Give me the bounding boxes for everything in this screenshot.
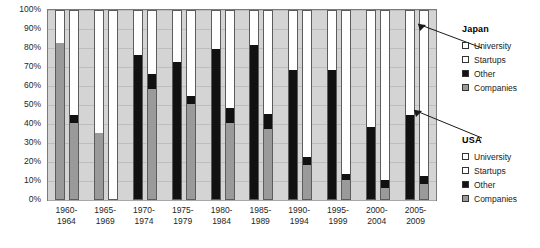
bar-japan-2000-2004[interactable] <box>366 10 376 200</box>
bar-segment-other <box>173 62 181 199</box>
bar-usa-1960-1964[interactable] <box>69 10 79 200</box>
x-axis-tick-line: 1999 <box>319 216 358 227</box>
bar-segment-companies <box>187 104 195 199</box>
legend-item[interactable]: University <box>462 39 540 52</box>
legend-label: University <box>474 152 511 162</box>
bar-usa-1990-1994[interactable] <box>302 10 312 200</box>
x-axis-tick: 1965-1969 <box>86 205 125 227</box>
bar-usa-1970-1974[interactable] <box>147 10 157 200</box>
bar-japan-1965-1969[interactable] <box>94 10 104 200</box>
y-axis-tick: 70% <box>24 62 41 71</box>
bar-usa-2000-2004[interactable] <box>380 10 390 200</box>
bar-segment-university <box>226 10 234 108</box>
legend-swatch-university <box>462 42 469 49</box>
bar-segment-other <box>134 55 142 199</box>
x-axis-tick: 1960-1964 <box>47 205 86 227</box>
bar-segment-companies <box>70 123 78 199</box>
bar-group <box>242 10 281 200</box>
bar-japan-1980-1984[interactable] <box>211 10 221 200</box>
bar-japan-1970-1974[interactable] <box>133 10 143 200</box>
bar-japan-1995-1999[interactable] <box>327 10 337 200</box>
x-axis-tick-line: 1965- <box>86 205 125 216</box>
bar-usa-1985-1989[interactable] <box>263 10 273 200</box>
bar-group <box>358 10 397 200</box>
bar-segment-other <box>289 70 297 199</box>
bar-group <box>164 10 203 200</box>
x-axis-tick-line: 1980- <box>202 205 241 216</box>
y-axis-tick: 20% <box>24 157 41 166</box>
y-axis-tick: 10% <box>24 176 41 185</box>
x-axis-tick: 1970-1974 <box>125 205 164 227</box>
bar-segment-other <box>148 74 156 89</box>
bar-group <box>397 10 436 200</box>
x-axis-tick: 1975-1979 <box>163 205 202 227</box>
bar-group <box>48 10 87 200</box>
legend-item[interactable]: Startups <box>462 53 540 66</box>
legend-item[interactable]: Companies <box>462 192 540 205</box>
bar-segment-university <box>367 10 375 127</box>
bar-segment-university <box>303 10 311 157</box>
legend-item[interactable]: Other <box>462 178 540 191</box>
y-axis-tick: 0% <box>29 195 41 204</box>
bar-segment-other <box>342 174 350 180</box>
bar-usa-2005-2009[interactable] <box>419 10 429 200</box>
bar-group <box>320 10 359 200</box>
bar-segment-university <box>406 10 414 115</box>
bar-segment-companies <box>95 133 103 200</box>
bar-segment-university <box>70 10 78 115</box>
legend-swatch-other <box>462 70 469 77</box>
bar-segment-companies <box>420 184 428 199</box>
bar-segment-companies <box>303 165 311 199</box>
x-axis-tick-line: 1970- <box>125 205 164 216</box>
bar-segment-companies <box>342 180 350 199</box>
legend-swatch-other <box>462 181 469 188</box>
bar-segment-university <box>381 10 389 180</box>
bar-segment-other <box>303 157 311 165</box>
legend-label: University <box>474 41 511 51</box>
bar-usa-1975-1979[interactable] <box>186 10 196 200</box>
legend-item[interactable]: Startups <box>462 164 540 177</box>
bar-usa-1965-1969[interactable] <box>108 10 118 200</box>
y-axis-tick: 80% <box>24 43 41 52</box>
x-axis-tick-line: 1975- <box>163 205 202 216</box>
bar-japan-1990-1994[interactable] <box>288 10 298 200</box>
bar-segment-university <box>187 10 195 96</box>
x-axis-tick-line: 2000- <box>357 205 396 216</box>
bar-usa-1980-1984[interactable] <box>225 10 235 200</box>
bar-group <box>281 10 320 200</box>
x-axis-tick: 1990-1994 <box>280 205 319 227</box>
bar-japan-2005-2009[interactable] <box>405 10 415 200</box>
bar-segment-companies <box>264 129 272 199</box>
bar-japan-1985-1989[interactable] <box>249 10 259 200</box>
bar-segment-university <box>148 10 156 74</box>
bar-usa-1995-1999[interactable] <box>341 10 351 200</box>
legend-label: Startups <box>474 55 506 65</box>
bar-japan-1975-1979[interactable] <box>172 10 182 200</box>
legend-usa: USA UniversityStartupsOtherCompanies <box>462 135 540 206</box>
x-axis-tick-line: 2009 <box>396 216 435 227</box>
y-axis-labels: 0%10%20%30%40%50%60%70%80%90%100% <box>0 0 44 201</box>
legend-label: Companies <box>474 194 517 204</box>
bar-segment-university <box>56 10 64 43</box>
bar-segment-other <box>250 45 258 199</box>
legend-item[interactable]: University <box>462 150 540 163</box>
legend-swatch-companies <box>462 195 469 202</box>
bar-segment-companies <box>148 89 156 199</box>
stacked-bar-chart: 0%10%20%30%40%50%60%70%80%90%100% 1960-1… <box>0 0 540 248</box>
bar-segment-university <box>342 10 350 174</box>
legend-item[interactable]: Other <box>462 67 540 80</box>
y-axis-tick: 50% <box>24 100 41 109</box>
legend-swatch-startups <box>462 56 469 63</box>
x-axis-tick: 1995-1999 <box>319 205 358 227</box>
bar-groups <box>48 10 436 200</box>
x-axis-tick-line: 1974 <box>125 216 164 227</box>
legend-item[interactable]: Companies <box>462 81 540 94</box>
bar-segment-companies <box>381 188 389 199</box>
bar-segment-companies <box>56 43 64 199</box>
legend-swatch-startups <box>462 167 469 174</box>
x-axis-tick-line: 1979 <box>163 216 202 227</box>
bar-japan-1960-1964[interactable] <box>55 10 65 200</box>
x-axis-tick-line: 1964 <box>47 216 86 227</box>
bar-segment-other <box>328 70 336 199</box>
y-axis-tick: 40% <box>24 119 41 128</box>
